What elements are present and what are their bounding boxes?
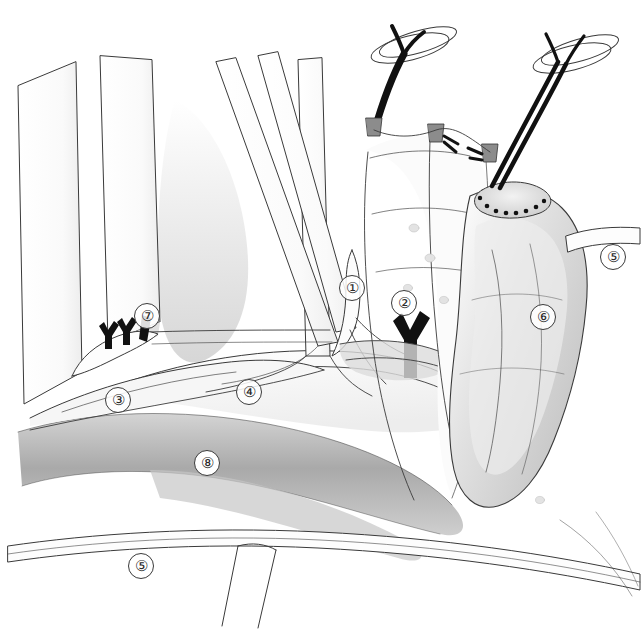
- label-8: ⑧: [194, 450, 220, 476]
- edge-clip-a: [366, 118, 382, 136]
- lower-vessel-pair: [8, 530, 640, 590]
- label-4: ④: [236, 379, 262, 405]
- label-5-right: ⑤: [600, 244, 626, 270]
- edge-clip-c: [482, 144, 498, 162]
- suture-thread-right: [492, 34, 584, 188]
- suture-loop-right: [530, 28, 621, 79]
- label-6: ⑥: [530, 304, 556, 330]
- illustration-canvas: ① ② ③ ④ ⑤ ⑥ ⑦ ⑧ ⑤: [0, 0, 642, 632]
- label-5-bottom: ⑤: [128, 553, 154, 579]
- suture-thread-left: [374, 26, 424, 132]
- label-3: ③: [105, 387, 131, 413]
- lower-vessel-branch-b: [258, 550, 276, 628]
- stump-top-cap: [475, 182, 551, 218]
- retractor-blade-left-inner: [100, 56, 160, 342]
- edge-clip-b: [428, 124, 444, 142]
- retractor-blade-left-outer: [18, 62, 82, 404]
- suture-loop-left: [368, 20, 459, 69]
- label-1: ①: [339, 275, 365, 301]
- label-2: ②: [391, 290, 417, 316]
- background-tissue-shadow: [158, 100, 249, 363]
- lower-vessel-branch-a: [222, 546, 238, 626]
- label-7: ⑦: [134, 303, 160, 329]
